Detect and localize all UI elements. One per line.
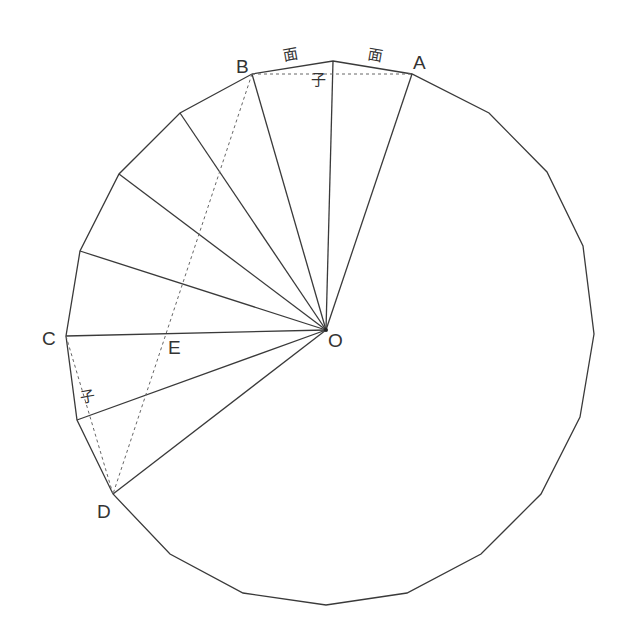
label-zi-top: 子 (311, 71, 326, 89)
radius-line (66, 330, 326, 336)
label-E: E (168, 337, 181, 358)
label-mian-left: 面 (282, 45, 300, 65)
label-A: A (413, 52, 426, 73)
label-O: O (328, 330, 343, 351)
radius-line (119, 174, 326, 330)
radius-line (252, 74, 326, 330)
label-mian-right: 面 (367, 45, 385, 65)
radius-line (180, 113, 326, 330)
label-B: B (236, 56, 249, 77)
label-D: D (97, 501, 111, 522)
radius-line (80, 251, 326, 330)
label-zi-left: 子 (79, 387, 97, 407)
radius-line (326, 74, 412, 330)
radius-line (77, 330, 326, 420)
label-C: C (42, 328, 56, 349)
polygon-diagram: A B C D E O 面 面 子 子 (0, 0, 629, 637)
dashed-chords (66, 74, 412, 494)
radial-lines (66, 61, 412, 494)
radius-line (326, 61, 333, 330)
diagram-stage: A B C D E O 面 面 子 子 (0, 0, 629, 637)
radius-line (113, 330, 326, 494)
